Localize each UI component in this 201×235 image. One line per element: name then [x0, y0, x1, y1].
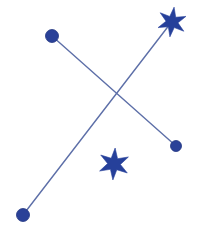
constellation-figure	[0, 0, 201, 235]
circle-marker	[17, 209, 30, 222]
circle-marker	[46, 30, 59, 43]
circle-marker	[171, 141, 182, 152]
diagram-canvas	[0, 0, 201, 235]
